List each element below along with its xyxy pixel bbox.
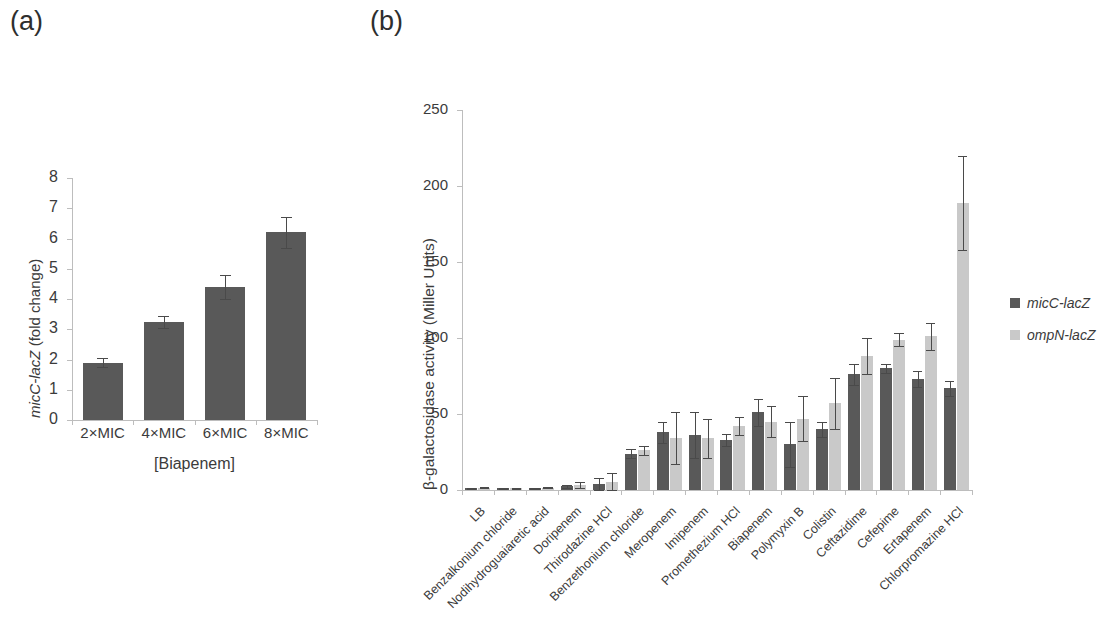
bar [912,379,924,490]
bar [144,322,184,420]
error-bar [612,473,613,490]
error-bar [931,323,932,350]
error-bar-cap-top [913,371,923,372]
error-bar-cap-bottom [671,464,681,465]
panel-b-letter: (b) [370,6,403,37]
error-bar [286,217,287,247]
y-axis-tick [457,110,462,111]
x-axis-tick [590,490,591,495]
error-bar-cap-bottom [97,367,108,368]
y-axis-tick-label: 150 [420,252,448,269]
y-axis-tick-label: 250 [420,100,448,117]
error-bar-cap-bottom [830,429,840,430]
legend-swatch-micc [1010,298,1020,308]
bar [720,440,732,490]
error-bar-cap-bottom [499,489,509,490]
error-bar [758,399,759,426]
error-bar [663,422,664,443]
panel-a-x-tick-label: 4×MIC [133,424,194,441]
error-bar-cap-top [703,419,713,420]
error-bar [835,378,836,430]
error-bar-cap-top [281,217,292,218]
legend-swatch-ompn [1010,330,1020,340]
panel-b-plot-area: 050100150200250 [462,110,972,490]
error-bar-cap-bottom [480,488,490,489]
y-axis-tick [67,208,72,209]
error-bar [918,371,919,386]
x-axis-tick [940,490,941,495]
panel-a-x-tick-label: 6×MIC [195,424,256,441]
panel-b-x-tick-labels: LBBenzalkonium chlorideNodihydroguaiaret… [440,496,1060,638]
error-bar-cap-top [785,422,795,423]
error-bar-cap-top [97,358,108,359]
error-bar-cap-bottom [543,488,553,489]
x-axis-tick [845,490,846,495]
panel-a-y-axis-label: micC-lacZ (fold change) [26,259,43,418]
error-bar-cap-top [607,473,617,474]
error-bar [867,338,868,374]
panel-a-x-tick-label: 8×MIC [256,424,317,441]
error-bar-cap-top [626,449,636,450]
error-bar-cap-bottom [658,443,668,444]
bar [861,356,873,490]
error-bar-cap-bottom [594,490,604,491]
y-axis-tick-label: 4 [46,289,58,307]
x-axis-tick [717,490,718,495]
bar [816,429,828,490]
y-axis-tick [67,390,72,391]
x-axis-tick [462,490,463,495]
error-bar-cap-bottom [894,346,904,347]
legend-item: ompN-lacZ [1010,327,1095,343]
bar [848,374,860,490]
error-bar-cap-bottom [626,458,636,459]
error-bar-cap-bottom [722,446,732,447]
error-bar [822,422,823,437]
error-bar [886,364,887,373]
error-bar-cap-bottom [158,328,169,329]
legend-item: micC-lacZ [1010,295,1095,311]
bar [266,232,306,420]
error-bar-cap-bottom [881,373,891,374]
error-bar-cap-bottom [467,489,477,490]
error-bar-cap-bottom [767,437,777,438]
panel-b-x-tick-label: LB [467,504,488,525]
error-bar-cap-top [690,412,700,413]
error-bar-cap-bottom [281,248,292,249]
legend-item-label: ompN-lacZ [1027,327,1095,343]
error-bar-cap-top [722,434,732,435]
error-bar-cap-bottom [817,437,827,438]
x-axis-tick [813,490,814,495]
panel-a-plot-area: 012345678 [72,178,317,420]
error-bar-cap-top [639,446,649,447]
error-bar-cap-bottom [945,396,955,397]
error-bar-cap-top [671,412,681,413]
y-axis-tick-label: 8 [46,168,58,186]
error-bar-cap-bottom [785,467,795,468]
error-bar-cap-top [849,364,859,365]
x-axis-tick [526,490,527,495]
panel-a-y-axis-label-gene: micC-lacZ [26,351,43,419]
bar [944,388,956,490]
error-bar-cap-bottom [575,488,585,489]
x-axis-tick [653,490,654,495]
error-bar-cap-bottom [735,435,745,436]
y-axis-tick-label: 2 [46,350,58,368]
y-axis-tick [67,239,72,240]
y-axis-line [72,178,73,420]
error-bar [771,406,772,436]
error-bar [854,364,855,385]
x-axis-tick [749,490,750,495]
error-bar [708,419,709,459]
error-bar-cap-bottom [703,458,713,459]
panel-a-y-axis-label-unit: (fold change) [26,259,43,351]
error-bar-cap-bottom [849,385,859,386]
error-bar-cap-top [862,338,872,339]
error-bar-cap-top [926,323,936,324]
y-axis-tick-label: 100 [420,328,448,345]
error-bar [676,412,677,464]
panel-b-y-axis-label: β-galactosidase activity (Miller Units) [420,238,438,490]
error-bar-cap-top [767,406,777,407]
error-bar [726,434,727,446]
bar [893,340,905,490]
y-axis-tick-label: 1 [46,380,58,398]
